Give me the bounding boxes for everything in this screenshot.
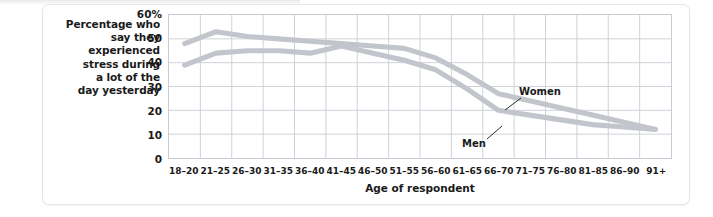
x-axis-tick-14: 86–90 — [609, 166, 641, 176]
y-axis-tick-20: 20 — [126, 106, 162, 116]
x-axis-tick-1: 21–25 — [200, 166, 232, 176]
x-axis-tick-0: 18–20 — [168, 166, 200, 176]
chart-series-lines — [169, 15, 671, 158]
y-axis-tick-10: 10 — [126, 130, 162, 140]
x-axis-tick-6: 46–50 — [357, 166, 389, 176]
x-axis-tick-8: 56–60 — [420, 166, 452, 176]
x-axis-tick-4: 36–40 — [294, 166, 326, 176]
x-axis-tick-5: 41–45 — [326, 166, 358, 176]
x-axis-tick-10: 66–70 — [483, 166, 515, 176]
y-axis-tick-60: 60% — [126, 9, 162, 19]
x-axis-tick-9: 61–65 — [452, 166, 484, 176]
x-axis-tick-2: 26–30 — [231, 166, 263, 176]
y-axis-tick-50: 50 — [126, 33, 162, 43]
x-axis-tick-3: 31–35 — [263, 166, 295, 176]
x-axis-tick-11: 71–75 — [515, 166, 547, 176]
plot-area — [168, 14, 672, 159]
series-label-men: Men — [462, 138, 486, 149]
series-label-women: Women — [519, 86, 561, 97]
y-axis-tick-0: 0 — [126, 154, 162, 164]
x-axis-tick-15: 91+ — [641, 166, 673, 176]
figure-root: Percentage who say they experienced stre… — [0, 0, 713, 217]
x-axis-tick-7: 51–55 — [389, 166, 421, 176]
x-axis-tick-13: 81–85 — [578, 166, 610, 176]
y-axis-caption-line-3: experienced — [52, 44, 160, 57]
x-axis-tick-12: 76–80 — [546, 166, 578, 176]
x-axis-title: Age of respondent — [168, 182, 672, 194]
y-axis-tick-40: 40 — [126, 57, 162, 67]
y-axis-tick-30: 30 — [126, 82, 162, 92]
